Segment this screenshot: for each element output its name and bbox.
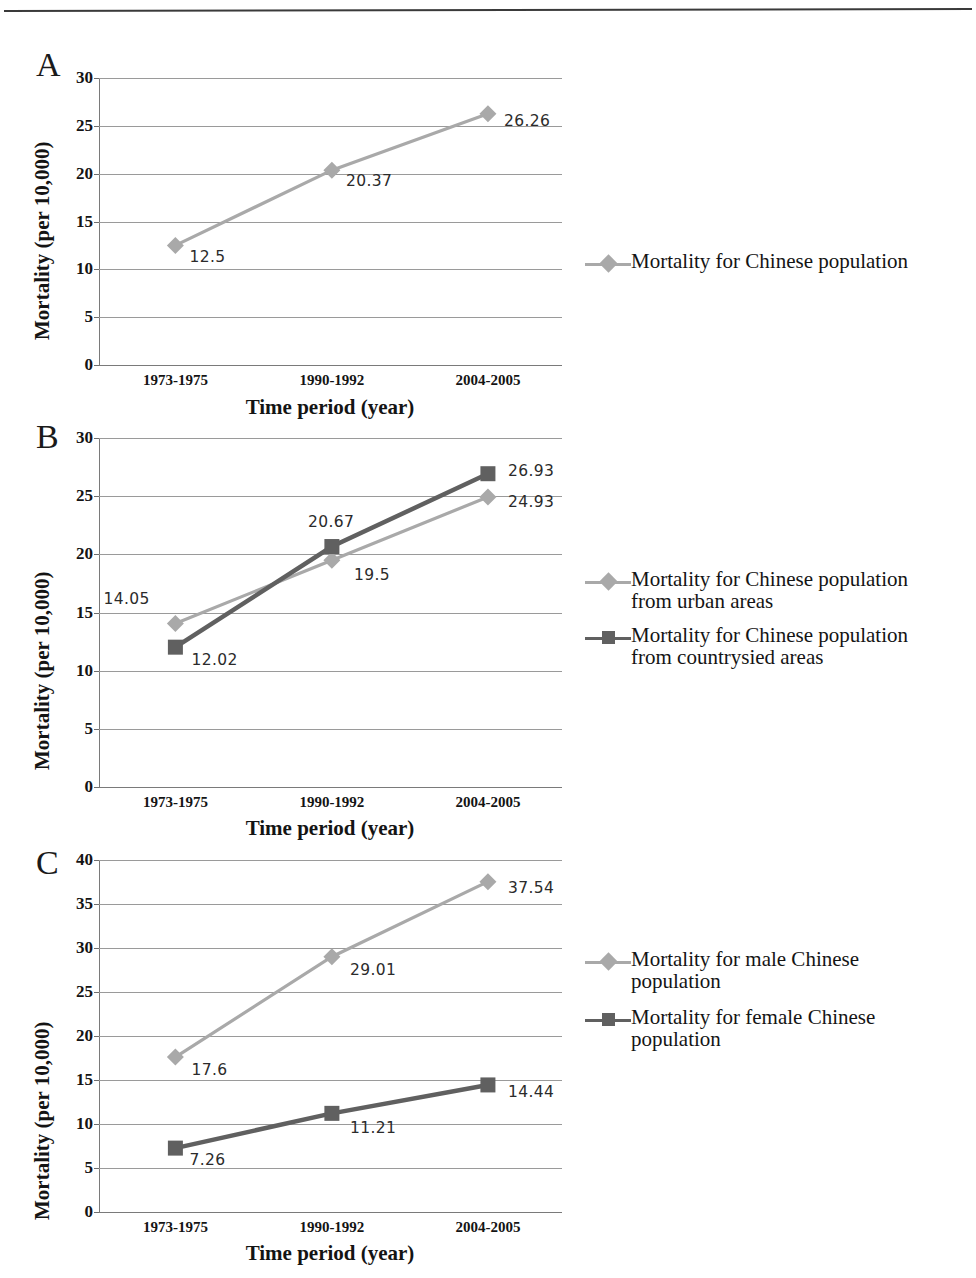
panel-a-x-axis-label: Time period (year) — [246, 395, 415, 420]
panel-b-letter: B — [36, 420, 59, 454]
legend-item[interactable]: Mortality for Chinese population — [585, 250, 908, 274]
x-axis-tick-label: 1990-1992 — [299, 372, 364, 389]
legend-item[interactable]: Mortality for female Chinese population — [585, 1006, 875, 1051]
data-point-diamond-marker — [323, 162, 340, 179]
legend-label-line1: Mortality for Chinese population — [631, 624, 908, 646]
legend-item[interactable]: Mortality for male Chinese population — [585, 948, 859, 993]
series-line — [175, 882, 488, 1057]
data-point-diamond-marker — [323, 552, 340, 569]
y-axis-tick-label: 5 — [85, 719, 94, 739]
panel-b-y-axis-label: Mortality (per 10,000) — [30, 572, 55, 770]
y-axis-tick-label: 15 — [76, 1070, 93, 1090]
panel-b: B Mortality (per 10,000) 051015202530197… — [0, 418, 976, 818]
x-axis-tick-label: 2004-2005 — [455, 372, 520, 389]
y-axis-tick-label: 35 — [76, 894, 93, 914]
legend-key-square-icon — [585, 1010, 631, 1030]
data-point-value-label: 14.44 — [508, 1083, 554, 1101]
data-point-value-label: 37.54 — [508, 879, 554, 897]
data-point-square-marker — [168, 1141, 183, 1156]
x-axis-tick-label: 1990-1992 — [299, 1219, 364, 1236]
legend-label-line2: population — [631, 1028, 875, 1050]
y-axis-tick-label: 15 — [76, 212, 93, 232]
data-point-square-marker — [324, 1106, 339, 1121]
data-point-value-label: 12.5 — [189, 248, 225, 266]
x-axis-tick-label: 2004-2005 — [455, 1219, 520, 1236]
panel-b-plot-area: 0510152025301973-19751990-19922004-20051… — [99, 438, 562, 787]
y-axis-tick-label: 5 — [85, 1158, 94, 1178]
legend-label-line1: Mortality for Chinese population — [631, 568, 908, 590]
data-point-value-label: 14.05 — [103, 590, 149, 608]
x-axis-tick-label: 1973-1975 — [143, 1219, 208, 1236]
legend-item[interactable]: Mortality for Chinese population from ur… — [585, 568, 908, 613]
legend-item[interactable]: Mortality for Chinese population from co… — [585, 624, 908, 669]
data-point-square-marker — [480, 466, 495, 481]
figure-page: A Mortality (per 10,000) 051015202530197… — [0, 0, 976, 1278]
data-point-value-label: 26.26 — [504, 112, 550, 130]
y-axis-tick-label: 10 — [76, 1114, 93, 1134]
gridline — [99, 1212, 562, 1213]
y-axis-tick-mark — [94, 365, 99, 366]
x-axis-tick-label: 1973-1975 — [143, 372, 208, 389]
y-axis-tick-label: 20 — [76, 544, 93, 564]
legend-key-square-icon — [585, 628, 631, 648]
data-point-value-label: 26.93 — [508, 462, 554, 480]
y-axis-tick-label: 40 — [76, 850, 93, 870]
y-axis-tick-mark — [94, 787, 99, 788]
legend-label: Mortality for Chinese population from co… — [631, 624, 908, 669]
legend-label-line1: Mortality for female Chinese — [631, 1006, 875, 1028]
panel-c-y-axis-label: Mortality (per 10,000) — [30, 1022, 55, 1220]
x-axis-tick-label: 1990-1992 — [299, 794, 364, 811]
x-axis-tick-label: 2004-2005 — [455, 794, 520, 811]
legend-label-line2: from urban areas — [631, 590, 908, 612]
legend-key-diamond-icon — [585, 952, 631, 972]
data-point-diamond-marker — [479, 488, 496, 505]
y-axis-tick-label: 5 — [85, 307, 94, 327]
y-axis-tick-label: 0 — [85, 1202, 94, 1222]
data-point-square-marker — [480, 1077, 495, 1092]
legend-label-line2: from countrysied areas — [631, 646, 908, 668]
panel-a-plot-area: 0510152025301973-19751990-19922004-20051… — [99, 78, 562, 365]
y-axis-tick-label: 20 — [76, 164, 93, 184]
data-point-value-label: 20.37 — [346, 172, 392, 190]
data-point-diamond-marker — [479, 873, 496, 890]
legend-label: Mortality for Chinese population from ur… — [631, 568, 908, 613]
panel-a-y-axis-label: Mortality (per 10,000) — [30, 142, 55, 340]
panel-c: C Mortality (per 10,000) 051015202530354… — [0, 838, 976, 1278]
y-axis-tick-label: 30 — [76, 68, 93, 88]
legend-label-line2: population — [631, 970, 859, 992]
panel-c-letter: C — [36, 846, 59, 880]
page-top-rule — [4, 8, 972, 12]
gridline — [99, 365, 562, 366]
y-axis-tick-label: 10 — [76, 259, 93, 279]
y-axis-tick-label: 0 — [85, 777, 94, 797]
data-point-square-marker — [324, 539, 339, 554]
panel-c-plot-area: 05101520253035401973-19751990-19922004-2… — [99, 860, 562, 1212]
data-point-diamond-marker — [167, 615, 184, 632]
data-point-value-label: 19.5 — [354, 566, 390, 584]
panel-a: A Mortality (per 10,000) 051015202530197… — [0, 40, 976, 400]
legend-key-diamond-icon — [585, 254, 631, 274]
gridline — [99, 787, 562, 788]
data-point-value-label: 24.93 — [508, 493, 554, 511]
panel-c-x-axis-label: Time period (year) — [246, 1241, 415, 1266]
y-axis-tick-mark — [94, 1212, 99, 1213]
data-point-square-marker — [168, 640, 183, 655]
legend-label: Mortality for Chinese population — [631, 250, 908, 272]
panel-a-letter: A — [36, 48, 61, 82]
y-axis-tick-label: 30 — [76, 938, 93, 958]
data-point-diamond-marker — [167, 1049, 184, 1066]
legend-label-line1: Mortality for male Chinese — [631, 948, 859, 970]
y-axis-tick-label: 15 — [76, 603, 93, 623]
series-layer — [99, 438, 562, 787]
data-point-value-label: 12.02 — [191, 651, 237, 669]
y-axis-tick-label: 30 — [76, 428, 93, 448]
series-layer — [99, 860, 562, 1212]
y-axis-tick-label: 10 — [76, 661, 93, 681]
data-point-value-label: 20.67 — [308, 513, 354, 531]
data-point-diamond-marker — [167, 237, 184, 254]
y-axis-tick-label: 25 — [76, 486, 93, 506]
data-point-value-label: 11.21 — [350, 1119, 396, 1137]
y-axis-tick-label: 25 — [76, 982, 93, 1002]
legend-key-diamond-icon — [585, 572, 631, 592]
legend-label-line1: Mortality for Chinese population — [631, 249, 908, 273]
